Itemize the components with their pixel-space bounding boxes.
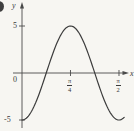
denominator-2: 2 <box>117 86 120 93</box>
x-axis-label: x <box>130 70 134 78</box>
origin-label: 0 <box>13 76 17 84</box>
y-tick-label-5: 5 <box>13 22 17 30</box>
x-axis-arrow-icon <box>123 71 130 75</box>
x-tick-label-pi-over-4: π 4 <box>67 78 72 93</box>
plot-canvas <box>0 0 134 131</box>
y-tick-label-neg5: -5 <box>4 116 11 124</box>
y-axis-label: y <box>12 2 16 10</box>
x-tick-label-pi-over-2: π 2 <box>116 78 121 93</box>
denominator-4: 4 <box>68 86 71 93</box>
pi-numerator: π <box>67 78 72 86</box>
function-plot-figure: y x 0 5 -5 π 4 π 2 <box>0 0 134 131</box>
pi-numerator: π <box>116 78 121 86</box>
y-axis-arrow-icon <box>20 2 24 9</box>
